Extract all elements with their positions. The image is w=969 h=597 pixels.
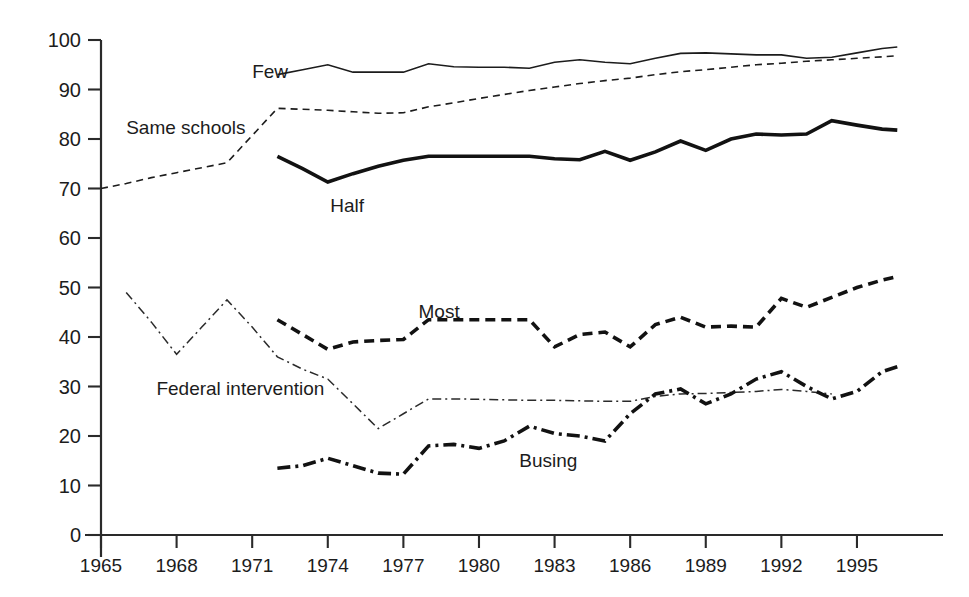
series-label-busing: Busing	[519, 450, 577, 471]
y-tick-label: 100	[48, 29, 81, 51]
x-tick-label: 1995	[836, 555, 878, 576]
x-axis-ticks: 1965196819711974197719801983198619891992…	[80, 535, 878, 576]
y-tick-label: 70	[59, 178, 81, 200]
y-axis-group: 0102030405060708090100	[48, 29, 101, 557]
series-label-most: Most	[419, 301, 461, 322]
x-tick-label: 1974	[307, 555, 350, 576]
x-tick-label: 1965	[80, 555, 122, 576]
x-tick-label: 1989	[685, 555, 727, 576]
y-tick-label: 90	[59, 79, 81, 101]
chart-canvas: 0102030405060708090100 19651968197119741…	[0, 0, 969, 597]
x-tick-label: 1977	[382, 555, 424, 576]
y-tick-label: 50	[59, 277, 81, 299]
series-label-few: Few	[252, 61, 288, 82]
series-line-federal-intervention	[126, 292, 832, 428]
x-tick-label: 1971	[231, 555, 273, 576]
y-axis-ticks: 0102030405060708090100	[48, 29, 101, 546]
series-labels-layer: FewSame schoolsHalfMostFederal intervent…	[126, 61, 577, 471]
series-label-same-schools: Same schools	[126, 117, 245, 138]
y-tick-label: 20	[59, 425, 81, 447]
y-tick-label: 80	[59, 128, 81, 150]
y-tick-label: 0	[70, 524, 81, 546]
x-tick-label: 1986	[609, 555, 651, 576]
series-line-half	[277, 121, 897, 182]
y-tick-label: 30	[59, 376, 81, 398]
x-tick-label: 1980	[458, 555, 500, 576]
series-label-half: Half	[330, 195, 365, 216]
x-tick-label: 1983	[533, 555, 575, 576]
y-tick-label: 60	[59, 227, 81, 249]
x-tick-label: 1992	[760, 555, 802, 576]
y-tick-label: 10	[59, 475, 81, 497]
x-axis-group: 1965196819711974197719801983198619891992…	[80, 535, 943, 576]
series-line-most	[277, 277, 897, 350]
x-tick-label: 1968	[155, 555, 197, 576]
y-tick-label: 40	[59, 326, 81, 348]
series-lines-layer	[101, 47, 897, 474]
line-chart-figure: 0102030405060708090100 19651968197119741…	[0, 0, 969, 597]
series-label-federal-intervention: Federal intervention	[156, 378, 324, 399]
